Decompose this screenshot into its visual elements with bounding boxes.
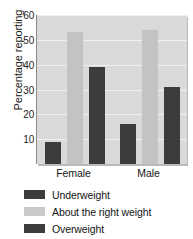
y-tick-label-20: 20 [10,110,34,119]
legend-item-overweight: Overweight [24,220,193,237]
bar-group-container [37,15,187,164]
y-tick-label-40: 40 [10,61,34,70]
chart-legend: UnderweightAbout the right weightOverwei… [24,186,193,237]
legend-item-underweight: Underweight [24,186,193,203]
bar-female-about-the-right-weight [67,32,83,164]
bar-male-underweight [120,124,136,164]
chart-screenshot: Percentage reporting 102030405060 Female… [0,0,193,239]
y-tick-label-10: 10 [10,135,34,144]
legend-label: About the right weight [52,206,151,218]
y-tick-label-30: 30 [10,86,34,95]
plot-area [36,15,187,164]
legend-item-about-the-right-weight: About the right weight [24,203,193,220]
legend-swatch-about-the-right-weight [24,207,45,216]
y-tick-label-50: 50 [10,36,34,45]
legend-label: Underweight [52,189,110,201]
legend-label: Overweight [52,223,104,235]
y-axis-tick-labels: 102030405060 [0,0,34,160]
bar-female-overweight [89,67,105,164]
y-tick-label-60: 60 [10,11,34,20]
bar-chart: Percentage reporting 102030405060 Female… [0,0,193,186]
x-label-male: Male [111,167,186,179]
x-label-female: Female [36,167,111,179]
legend-swatch-overweight [24,224,45,233]
bar-male-overweight [164,87,180,164]
bar-female-underweight [45,142,61,164]
x-axis-category-labels: FemaleMale [36,167,186,183]
legend-swatch-underweight [24,190,45,199]
bar-male-about-the-right-weight [142,30,158,164]
